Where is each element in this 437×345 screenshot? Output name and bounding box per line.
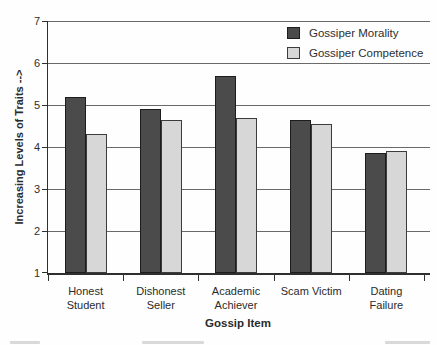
- gridline-y7: [48, 21, 430, 22]
- x-axis-tick-5: [424, 275, 425, 281]
- bar-gossiper-competence-academic-achiever: [236, 118, 257, 273]
- legend: Gossiper Morality Gossiper Competence: [287, 26, 423, 66]
- bar-gossiper-morality-scam-victim: [290, 120, 311, 273]
- legend-swatch-morality: [287, 27, 300, 39]
- x-axis-title: Gossip Item: [47, 317, 429, 329]
- y-tick-label-5: 5: [22, 99, 40, 111]
- y-axis-tick-1: [42, 272, 48, 273]
- category-label-dating-failure: Dating Failure: [354, 284, 418, 312]
- bar-gossiper-morality-academic-achiever: [215, 76, 236, 273]
- x-axis-tick-4: [349, 275, 350, 281]
- y-tick-label-7: 7: [22, 15, 40, 27]
- bar-gossiper-morality-dating-failure: [365, 153, 386, 273]
- bar-gossiper-morality-honest-student: [65, 97, 86, 273]
- bar-gossiper-competence-honest-student: [86, 134, 107, 273]
- y-tick-label-1: 1: [22, 267, 40, 279]
- y-tick-label-3: 3: [22, 183, 40, 195]
- category-label-honest-student: Honest Student: [54, 284, 118, 312]
- legend-item-morality: Gossiper Morality: [287, 26, 423, 39]
- y-tick-label-2: 2: [22, 225, 40, 237]
- bar-chart-figure: Increasing Levels of Traits --> 1234567H…: [0, 0, 437, 345]
- bar-gossiper-morality-dishonest-seller: [140, 109, 161, 273]
- gridline-y5: [48, 105, 430, 106]
- bar-gossiper-competence-dating-failure: [386, 151, 407, 273]
- cropped-caption-fragment: [142, 341, 204, 344]
- cropped-caption-fragment: [385, 341, 430, 344]
- y-tick-label-4: 4: [22, 141, 40, 153]
- x-axis-tick-0: [48, 275, 49, 281]
- legend-swatch-competence: [287, 47, 300, 59]
- category-label-academic-achiever: Academic Achiever: [204, 284, 268, 312]
- x-axis-tick-1: [123, 275, 124, 281]
- bar-gossiper-competence-scam-victim: [311, 124, 332, 273]
- category-label-scam-victim: Scam Victim: [279, 284, 343, 298]
- legend-label-morality: Gossiper Morality: [309, 27, 398, 39]
- cropped-caption-fragment: [10, 341, 40, 344]
- y-tick-label-6: 6: [22, 57, 40, 69]
- legend-label-competence: Gossiper Competence: [309, 47, 423, 59]
- category-label-dishonest-seller: Dishonest Seller: [129, 284, 193, 312]
- legend-item-competence: Gossiper Competence: [287, 46, 423, 59]
- x-axis-tick-2: [198, 275, 199, 281]
- bar-gossiper-competence-dishonest-seller: [161, 120, 182, 273]
- x-axis-tick-3: [274, 275, 275, 281]
